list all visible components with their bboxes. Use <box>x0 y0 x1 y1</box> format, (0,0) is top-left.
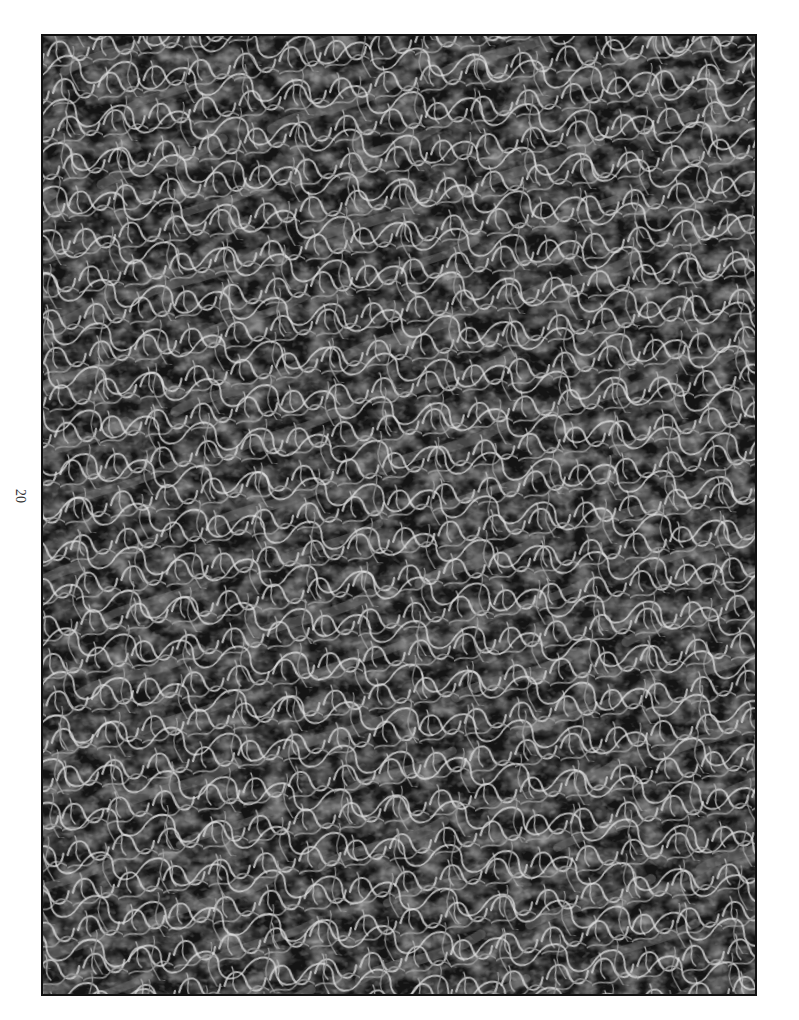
wire-mesh-texture <box>43 36 755 994</box>
page-number: 20 <box>8 484 32 508</box>
texture-photograph <box>41 34 757 996</box>
